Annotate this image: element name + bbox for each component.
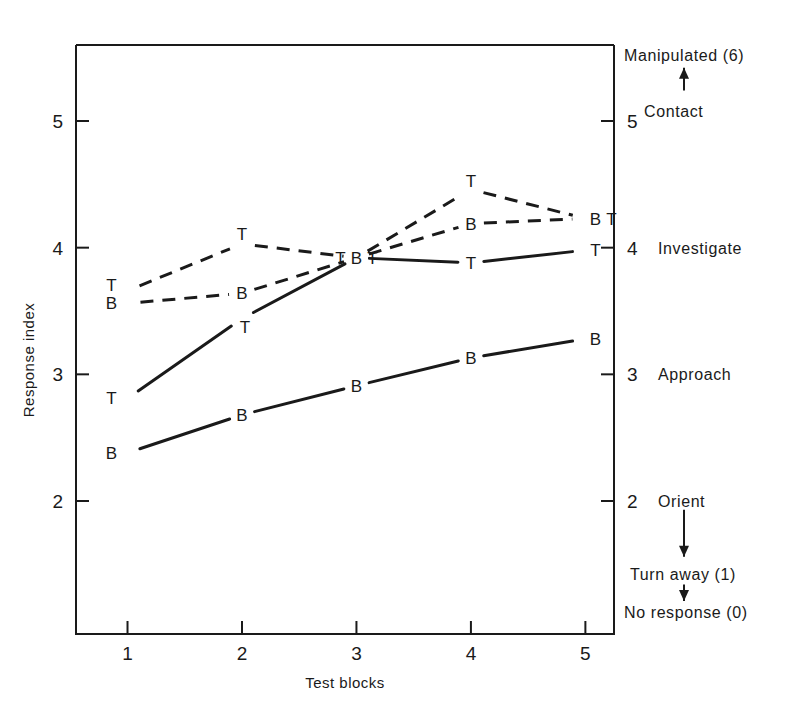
point-marker-B: B (590, 210, 601, 229)
point-marker-T: T (606, 210, 616, 229)
x-tick-label: 4 (466, 643, 477, 664)
point-marker-T: T (367, 249, 377, 268)
y-axis-title: Response index (20, 303, 37, 418)
series-segment-B-dashed (254, 262, 344, 290)
series-segment-B-solid (140, 419, 230, 449)
chart-svg: TBTBTBTBTBTBTBTBBTTB 2233445512345 Manip… (0, 0, 800, 705)
series-segment-B-dashed (369, 227, 459, 254)
point-marker-B: B (351, 377, 362, 396)
arrow-down-orient-to-turn-away-head (679, 546, 689, 557)
y-tick-label: 4 (52, 238, 63, 259)
x-axis-title: Test blocks (305, 674, 385, 691)
y-tick-label-right: 4 (627, 238, 638, 259)
point-marker-B: B (106, 294, 117, 313)
annotation-turn-away: Turn away (1) (630, 566, 736, 583)
x-tick-label: 3 (351, 643, 362, 664)
annotation-approach: Approach (658, 366, 731, 383)
point-marker-T: T (590, 241, 600, 260)
chart-figure: TBTBTBTBTBTBTBTBBTTB 2233445512345 Manip… (0, 0, 800, 705)
series-segment-B-dashed (484, 219, 572, 223)
point-marker-B: B (465, 215, 476, 234)
point-marker-T: T (106, 389, 116, 408)
series-segment-T-solid (369, 258, 457, 262)
series-segment-B-dashed (140, 294, 229, 302)
x-tick-label: 1 (122, 643, 133, 664)
y-tick-label-right: 5 (627, 111, 638, 132)
x-tick-label: 5 (580, 643, 591, 664)
series-segment-T-solid (484, 252, 573, 262)
point-marker-B: B (465, 349, 476, 368)
x-tick-label: 2 (237, 643, 248, 664)
point-marker-B: B (236, 284, 247, 303)
series-segment-T-dashed (140, 249, 230, 286)
y-tick-label-right: 3 (627, 364, 638, 385)
series-segment-T-dashed (484, 193, 573, 216)
point-marker-B: B (351, 249, 362, 268)
plot-border (76, 45, 614, 634)
point-marker-T: T (466, 254, 476, 273)
series-segment-B-solid (369, 361, 458, 383)
series-segment-B-solid (255, 389, 344, 412)
annotation-investigate: Investigate (658, 240, 742, 257)
point-marker-B: B (106, 444, 117, 463)
data-point-labels: TBTBTBTBTBTBTBTBBTTB (106, 172, 617, 462)
y-tick-label: 3 (52, 364, 63, 385)
point-marker-T: T (335, 249, 345, 268)
scale-arrows (679, 68, 689, 601)
annotation-contact: Contact (644, 103, 703, 120)
point-marker-T: T (466, 172, 476, 191)
annotation-no-response: No response (0) (624, 604, 748, 621)
point-marker-T: T (106, 276, 116, 295)
arrow-up-to-manipulated-head (679, 68, 689, 79)
annotation-manipulated: Manipulated (6) (624, 47, 744, 64)
series-segment-T-solid (253, 264, 345, 313)
point-marker-B: B (236, 406, 247, 425)
series-segment-B-solid (484, 341, 573, 356)
data-series (138, 193, 573, 449)
y-tick-label: 5 (52, 111, 63, 132)
tick-labels: 2233445512345 (52, 111, 638, 664)
y-tick-label-right: 2 (627, 491, 638, 512)
series-segment-T-solid (138, 326, 231, 391)
y-tick-label: 2 (52, 491, 63, 512)
series-segment-T-dashed (368, 196, 460, 251)
annotation-orient: Orient (658, 493, 705, 510)
series-segment-T-dashed (255, 245, 344, 256)
point-marker-B: B (590, 330, 601, 349)
plot-frame (76, 45, 614, 634)
scale-annotations: Manipulated (6)ContactInvestigateApproac… (624, 47, 748, 621)
point-marker-T: T (237, 225, 247, 244)
point-marker-T: T (240, 318, 250, 337)
arrow-down-turn-away-to-no-response-head (679, 590, 689, 601)
